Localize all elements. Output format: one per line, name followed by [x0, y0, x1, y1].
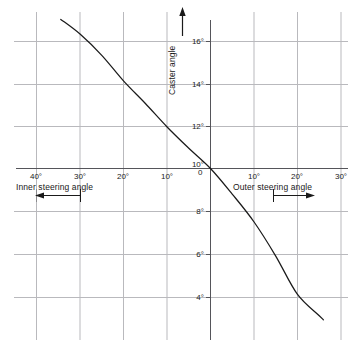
y-axis-tick-marks	[206, 42, 211, 298]
x-tick-label-outer-20: 20°	[291, 173, 303, 181]
chart-plot-area	[0, 0, 363, 347]
y-tick-label-4: 4°	[186, 294, 204, 302]
y-tick-label-12: 12°	[186, 123, 204, 131]
x-tick-label-outer-10: 10°	[248, 173, 260, 181]
origin-label: 0	[198, 169, 202, 177]
x-tick-label-inner-30: 30°	[74, 173, 86, 181]
y-axis-title: Caster angle	[167, 46, 177, 95]
y-tick-label-14: 14°	[186, 81, 204, 89]
caster-angle-curve	[61, 19, 324, 319]
inner-steering-angle-label: Inner steering angle	[16, 183, 93, 192]
y-axis-arrow-icon	[179, 7, 185, 36]
x-tick-label-inner-10: 10°	[161, 173, 173, 181]
x-tick-label-outer-30: 30°	[335, 173, 347, 181]
y-tick-label-10: 10°	[186, 161, 204, 169]
x-tick-label-inner-40: 40°	[30, 173, 42, 181]
y-tick-label-16: 16°	[186, 38, 204, 46]
caster-angle-chart: 40° 30° 20° 10° 10° 20° 30° 0 16° 14° 12…	[0, 0, 363, 347]
outer-steering-angle-label: Outer steering angle	[233, 183, 312, 192]
y-tick-label-8: 8°	[186, 208, 204, 216]
x-tick-label-inner-20: 20°	[117, 173, 129, 181]
y-tick-label-6: 6°	[186, 251, 204, 259]
